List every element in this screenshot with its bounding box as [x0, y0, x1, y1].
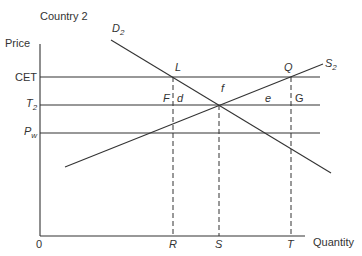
demand-label: D2	[112, 22, 124, 39]
quantity-t: T	[287, 238, 294, 250]
origin-label: 0	[36, 238, 42, 250]
area-e: e	[265, 92, 271, 104]
point-l: L	[175, 61, 181, 73]
point-f: F	[163, 92, 170, 104]
y-axis-label: Price	[5, 37, 30, 49]
area-f: f	[221, 82, 224, 94]
cet-label: CET	[15, 71, 37, 83]
point-g: G	[295, 92, 304, 104]
t2-label: T2	[26, 97, 37, 114]
tariff-diagram	[0, 0, 362, 256]
supply-curve	[65, 64, 323, 167]
quantity-s: S	[215, 238, 222, 250]
demand-curve	[111, 40, 331, 173]
diagram-title: Country 2	[40, 10, 88, 22]
pw-label: Pw	[24, 125, 37, 142]
x-axis-label: Quantity	[313, 236, 354, 248]
quantity-r: R	[169, 238, 177, 250]
supply-label: S2	[325, 57, 337, 74]
point-q: Q	[284, 61, 293, 73]
area-d: d	[177, 92, 183, 104]
